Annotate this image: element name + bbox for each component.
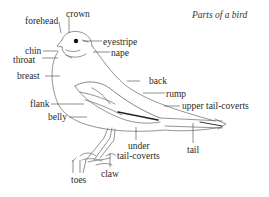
label-claw: claw	[101, 169, 119, 179]
label-breast: breast	[17, 71, 40, 81]
label-under-tail-coverts-line2: tail-coverts	[117, 151, 160, 161]
label-tail: tail	[187, 145, 199, 155]
label-toes: toes	[71, 175, 86, 185]
label-forehead: forehead	[25, 16, 58, 26]
label-belly: belly	[48, 112, 67, 122]
label-upper-tail-coverts: upper tail-coverts	[182, 101, 249, 111]
diagram-title: Parts of a bird	[192, 10, 247, 20]
label-under-tail-coverts-line1: under	[128, 141, 150, 151]
label-nape: nape	[111, 48, 129, 58]
bird-parts-diagram: Parts of a bird crown forehead eyestripe…	[0, 0, 269, 197]
eye-dot	[74, 39, 78, 43]
label-back: back	[149, 76, 167, 86]
label-eyestripe: eyestripe	[103, 37, 137, 47]
label-throat: throat	[13, 55, 35, 65]
label-crown: crown	[66, 9, 90, 19]
label-rump: rump	[166, 89, 186, 99]
label-flank: flank	[30, 99, 50, 109]
